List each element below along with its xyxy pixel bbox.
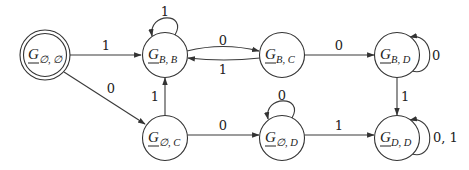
edge-label: 0, 1 bbox=[433, 130, 458, 145]
edge-empty-c-to-bb: 1 bbox=[151, 78, 165, 116]
edge-label: 1 bbox=[151, 89, 159, 104]
edge-label: 0 bbox=[335, 38, 343, 53]
state-node-dd: G D, D bbox=[375, 116, 420, 161]
edge-label: 1 bbox=[102, 38, 110, 53]
edge-bd-to-dd: 1 bbox=[397, 77, 409, 115]
edge-empty-empty-to-bb: 1 bbox=[70, 38, 141, 55]
edge-label: 1 bbox=[401, 89, 409, 104]
edge-label: 0 bbox=[432, 48, 440, 63]
state-node-bd: G B, D bbox=[375, 33, 420, 78]
edge-empty-d-self-loop: 0 bbox=[268, 88, 295, 119]
edge-label: 1 bbox=[335, 118, 343, 133]
state-node-empty-c: G ∅, C bbox=[143, 116, 188, 161]
node-label: G bbox=[148, 129, 159, 145]
edge-label: 1 bbox=[219, 62, 227, 77]
edge-empty-empty-to-empty-c: 0 bbox=[64, 72, 145, 124]
edge-bb-to-bc: 0 bbox=[187, 33, 259, 51]
edge-bb-self-loop: 1 bbox=[152, 4, 178, 36]
node-label: G bbox=[265, 46, 276, 62]
edge-label: 1 bbox=[161, 4, 169, 19]
node-subscript: B, C bbox=[276, 54, 296, 65]
node-label: G bbox=[265, 129, 276, 145]
edge-bc-to-bb: 1 bbox=[188, 58, 260, 77]
node-subscript: ∅, C bbox=[159, 137, 181, 148]
node-subscript: ∅, D bbox=[276, 137, 298, 148]
state-node-bc: G B, C bbox=[260, 33, 305, 78]
state-node-empty-empty: G ∅, ∅ bbox=[20, 30, 70, 80]
node-label: G bbox=[380, 129, 391, 145]
node-subscript: B, B bbox=[159, 54, 178, 65]
node-subscript: ∅, ∅ bbox=[39, 54, 63, 65]
edge-label: 0 bbox=[107, 81, 115, 96]
node-label: G bbox=[148, 46, 159, 62]
edge-empty-c-to-empty-d: 0 bbox=[187, 118, 259, 135]
edge-bc-to-bd: 0 bbox=[304, 38, 374, 55]
state-node-bb: G B, B bbox=[143, 33, 188, 78]
edge-empty-d-to-dd: 1 bbox=[304, 118, 374, 135]
state-node-empty-d: G ∅, D bbox=[260, 116, 305, 161]
edge-label: 0 bbox=[219, 33, 227, 48]
node-subscript: D, D bbox=[390, 137, 412, 148]
node-label: G bbox=[28, 46, 39, 62]
state-diagram: 1 0 1 0 1 0 0 1 1 0 bbox=[0, 0, 469, 170]
edge-label: 0 bbox=[278, 88, 286, 103]
node-label: G bbox=[380, 46, 391, 62]
edge-label: 0 bbox=[219, 118, 227, 133]
node-subscript: B, D bbox=[391, 54, 411, 65]
